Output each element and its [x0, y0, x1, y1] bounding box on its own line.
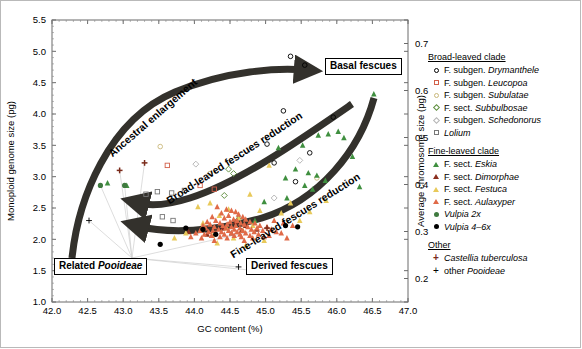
- legend-item-label: F. subgen. Subulatae: [444, 90, 529, 100]
- circle-open-icon: [428, 68, 444, 73]
- legend-group-title-fine: Fine-leaved clade: [428, 146, 580, 156]
- legend-item-label: F. sect. Aulaxyper: [444, 197, 515, 207]
- callout-derived-fescues: Derived fescues: [246, 258, 333, 275]
- legend-label-italic: Festuca: [475, 184, 507, 194]
- svg-text:3.5: 3.5: [33, 140, 46, 151]
- legend-item-label: other Pooideae: [444, 266, 505, 276]
- legend-item-label: F. subgen. Schedonorus: [444, 115, 541, 125]
- legend-label-prefix: other: [444, 266, 467, 276]
- legend-item: Vulpia 4–6x: [428, 221, 580, 234]
- legend-label-italic: Lolium: [444, 128, 471, 138]
- triangle-icon: [428, 187, 444, 192]
- svg-text:42.5: 42.5: [78, 305, 97, 316]
- legend: Broad-leaved clade F. subgen. Drymanthel…: [428, 52, 580, 277]
- svg-text:0.7: 0.7: [415, 38, 428, 49]
- legend-item-label: F. subgen. Drymanthele: [444, 65, 539, 75]
- square-open-icon: [428, 80, 444, 85]
- legend-item: Vulpia 2x: [428, 208, 580, 221]
- legend-item: F. subgen. Subulatae: [428, 89, 580, 102]
- svg-text:2.5: 2.5: [33, 202, 46, 213]
- svg-text:5.0: 5.0: [33, 46, 46, 57]
- legend-item: F. subgen. Leucopoa: [428, 77, 580, 90]
- figure-panel: 42.042.543.043.544.044.545.045.546.046.5…: [0, 0, 582, 349]
- svg-text:45.5: 45.5: [292, 305, 311, 316]
- triangle-icon: [428, 174, 444, 179]
- callout-related-pooideae: Related Pooideae: [54, 258, 147, 275]
- svg-text:45.0: 45.0: [256, 305, 275, 316]
- callout-related-prefix: Related: [59, 260, 98, 271]
- legend-label-prefix: F. subgen.: [444, 115, 488, 125]
- legend-item: +other Pooideae: [428, 265, 580, 278]
- svg-text:1.5: 1.5: [33, 265, 46, 276]
- svg-text:3.0: 3.0: [33, 171, 46, 182]
- legend-label-italic: Eskia: [475, 159, 497, 169]
- legend-label-italic: Leucopoa: [488, 78, 528, 88]
- legend-group-title-broad: Broad-leaved clade: [428, 52, 580, 62]
- legend-item-label: F. sect. Festuca: [444, 184, 507, 194]
- svg-text:44.5: 44.5: [221, 305, 240, 316]
- legend-item: F. sect. Subbulbosae: [428, 102, 580, 115]
- legend-group-fine: F. sect. EskiaF. sect. DimorphaeF. sect.…: [428, 158, 580, 233]
- legend-item-label: F. sect. Subbulbosae: [444, 103, 528, 113]
- legend-label-prefix: F. sect.: [444, 184, 475, 194]
- legend-item-label: F. subgen. Leucopoa: [444, 78, 528, 88]
- legend-label-italic: Vulpia 2x: [444, 209, 481, 219]
- legend-item-label: Vulpia 4–6x: [444, 222, 491, 232]
- circle-filled-icon: [428, 212, 444, 217]
- legend-item: F. subgen. Drymanthele: [428, 64, 580, 77]
- legend-label-italic: Dimorphae: [475, 172, 519, 182]
- legend-label-prefix: F. subgen.: [444, 78, 488, 88]
- plus-bold-icon: +: [428, 255, 444, 261]
- legend-group-title-other: Other: [428, 240, 580, 250]
- svg-text:43.5: 43.5: [150, 305, 169, 316]
- legend-item-label: F. sect. Eskia: [444, 159, 497, 169]
- legend-item: +Castellia tuberculosa: [428, 252, 580, 265]
- legend-label-italic: Subulatae: [488, 90, 529, 100]
- legend-item: F. subgen. Schedonorus: [428, 114, 580, 127]
- legend-item-label: Lolium: [444, 128, 471, 138]
- legend-label-italic: Subbulbosae: [475, 103, 528, 113]
- diamond-open-icon: [428, 105, 444, 110]
- triangle-icon: [428, 162, 444, 167]
- legend-label-italic: Vulpia 4–6x: [444, 222, 491, 232]
- svg-text:47.0: 47.0: [399, 305, 418, 316]
- svg-text:46.0: 46.0: [328, 305, 347, 316]
- svg-text:0.2: 0.2: [415, 273, 428, 284]
- legend-group-broad: F. subgen. DrymantheleF. subgen. Leucopo…: [428, 64, 580, 139]
- legend-label-prefix: F. sect.: [444, 103, 475, 113]
- legend-label-italic: Schedonorus: [488, 115, 541, 125]
- circle-filled-icon: [428, 224, 444, 229]
- svg-text:0.6: 0.6: [415, 85, 428, 96]
- legend-label-prefix: F. sect.: [444, 197, 475, 207]
- legend-item-label: F. sect. Dimorphae: [444, 172, 519, 182]
- plus-icon: +: [428, 268, 444, 274]
- svg-text:4.0: 4.0: [33, 108, 46, 119]
- svg-text:Monoploid genome size (pg): Monoploid genome size (pg): [5, 101, 16, 221]
- legend-label-prefix: F. sect.: [444, 172, 475, 182]
- legend-item: Lolium: [428, 127, 580, 140]
- legend-group-other: +Castellia tuberculosa+other Pooideae: [428, 252, 580, 277]
- diamond-open-icon: [428, 118, 444, 123]
- circle-open-icon: [428, 93, 444, 98]
- legend-label-italic: Pooideae: [467, 266, 505, 276]
- legend-item: F. sect. Eskia: [428, 158, 580, 171]
- legend-label-prefix: F. subgen.: [444, 90, 488, 100]
- legend-label-italic: Drymanthele: [488, 65, 539, 75]
- svg-text:2.0: 2.0: [33, 234, 46, 245]
- triangle-icon: [428, 199, 444, 204]
- legend-label-italic: Castellia tuberculosa: [444, 253, 528, 263]
- callout-basal-fescues: Basal fescues: [325, 58, 402, 75]
- legend-label-italic: Aulaxyper: [475, 197, 515, 207]
- svg-text:46.5: 46.5: [363, 305, 382, 316]
- svg-text:GC content (%): GC content (%): [197, 323, 262, 334]
- legend-item: F. sect. Festuca: [428, 183, 580, 196]
- svg-text:4.5: 4.5: [33, 77, 46, 88]
- legend-label-prefix: F. subgen.: [444, 65, 488, 75]
- legend-item-label: Vulpia 2x: [444, 209, 481, 219]
- svg-text:Average chromosome size (pg): Average chromosome size (pg): [415, 95, 426, 227]
- square-open-icon: [428, 130, 444, 135]
- callout-related-italic: Pooideae: [98, 260, 142, 271]
- series-vulpia-2x: [98, 183, 127, 188]
- svg-text:44.0: 44.0: [185, 305, 204, 316]
- svg-text:1.0: 1.0: [33, 296, 46, 307]
